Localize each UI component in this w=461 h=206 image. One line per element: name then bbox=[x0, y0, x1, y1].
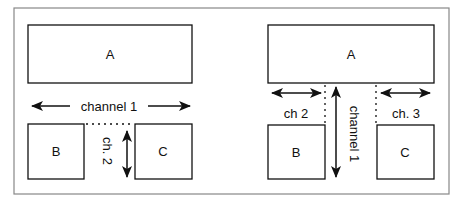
channel-diagram: A channel 1 B C ch. 2 A ch 2 ch. 3 chann… bbox=[0, 0, 461, 206]
box-a-right-label: A bbox=[347, 47, 356, 62]
channel-1-label-left: channel 1 bbox=[81, 99, 137, 114]
channel-2-label-right: ch 2 bbox=[284, 106, 309, 121]
box-b-right-label: B bbox=[292, 145, 301, 160]
channel-1-label-right: channel 1 bbox=[347, 106, 362, 162]
box-b-left-label: B bbox=[52, 144, 61, 159]
channel-2-label-left: ch. 2 bbox=[100, 137, 115, 165]
box-a-left-label: A bbox=[106, 47, 115, 62]
box-c-right-label: C bbox=[400, 145, 409, 160]
box-c-left-label: C bbox=[158, 144, 167, 159]
channel-3-label: ch. 3 bbox=[392, 106, 420, 121]
